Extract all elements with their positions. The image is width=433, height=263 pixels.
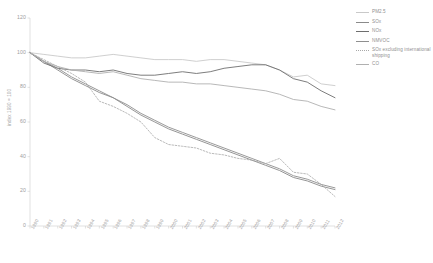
legend-item[interactable]: PM2.5 [356,9,432,16]
y-tick-label: 120 [17,15,26,20]
legend-swatch-solid-icon [356,38,369,44]
legend-label: SOx [372,19,381,25]
legend-label: NOx [372,28,382,34]
legend-label: CO [372,61,379,67]
legend-swatch-solid-icon [356,62,369,68]
legend-item[interactable]: SOx excluding international shipping [356,47,432,58]
emissions-index-line-chart: index 1990 = 100 020406080100120 1990199… [0,0,433,263]
plot-svg [30,18,335,226]
legend-item[interactable]: CO [356,61,432,68]
series-line [30,53,335,190]
legend-swatch-solid-icon [356,10,369,16]
legend-item[interactable]: NOx [356,28,432,35]
y-tick-label: 40 [20,154,26,159]
y-axis-tick-labels: 020406080100120 [0,18,26,226]
series-line [30,53,335,188]
y-tick-label: 20 [20,189,26,194]
x-tick-label: 2012 [336,219,345,230]
legend-label: PM2.5 [372,9,386,15]
y-tick-label: 100 [17,50,26,55]
legend-label: NMVOC [372,38,390,44]
chart-legend: PM2.5SOxNOxNMVOCSOx excluding internatio… [356,9,432,71]
x-axis-tick-labels: 1990199119921993199419951996199719981999… [30,228,335,262]
legend-label: SOx excluding international shipping [372,47,432,58]
plot-area [30,18,335,226]
legend-item[interactable]: SOx [356,19,432,26]
series-line [30,53,335,110]
legend-swatch-solid-icon [356,19,369,25]
axis-tick-marks [28,18,336,229]
axis-lines [30,18,335,226]
legend-item[interactable]: NMVOC [356,38,432,45]
y-tick-label: 60 [20,119,26,124]
y-tick-label: 80 [20,85,26,90]
y-tick-label: 0 [23,223,26,228]
series-lines [30,53,335,197]
legend-swatch-solid-icon [356,29,369,35]
legend-swatch-dashed-icon [356,48,369,54]
